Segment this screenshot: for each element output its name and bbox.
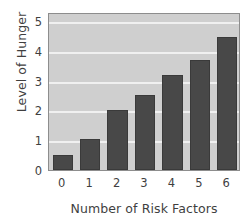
y-tick-label: 2 — [24, 105, 42, 117]
x-tick-label: 6 — [213, 176, 240, 190]
bar — [135, 95, 155, 170]
y-tick-label: 1 — [24, 135, 42, 147]
bar — [53, 155, 73, 170]
y-tick-label: 4 — [24, 46, 42, 58]
x-tick-label: 0 — [48, 176, 75, 190]
x-axis-tick-labels: 0123456 — [48, 176, 240, 192]
gridline — [49, 52, 239, 54]
x-tick-label: 1 — [75, 176, 102, 190]
bar — [190, 60, 210, 170]
y-tick-label: 5 — [24, 16, 42, 28]
bar-chart-figure: Level of Hunger 012345 0123456 Number of… — [0, 0, 250, 224]
plot-area — [48, 13, 240, 171]
y-tick-label: 3 — [24, 76, 42, 88]
x-tick-label: 5 — [185, 176, 212, 190]
x-tick-label: 2 — [103, 176, 130, 190]
bar — [107, 110, 127, 170]
y-tick-label: 0 — [24, 165, 42, 177]
x-tick-label: 3 — [130, 176, 157, 190]
gridline — [49, 82, 239, 84]
bar — [162, 75, 182, 170]
bar — [80, 139, 100, 170]
x-tick-label: 4 — [158, 176, 185, 190]
x-axis-title: Number of Risk Factors — [48, 201, 240, 216]
bar — [217, 37, 237, 170]
gridline — [49, 22, 239, 24]
y-axis-tick-labels: 012345 — [24, 0, 42, 224]
